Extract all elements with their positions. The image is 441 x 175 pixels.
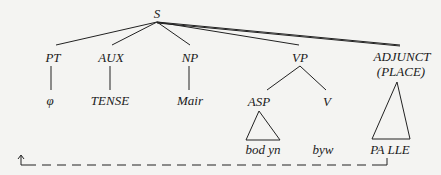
tree-edges [51,22,410,140]
edge-vp-v [300,66,326,90]
arrow-head-stem [21,156,27,165]
leaf-mair: Mair [176,93,204,108]
triangle-asp [246,111,280,140]
leaf-tense: TENSE [91,93,129,108]
node-pt: PT [44,50,61,65]
leaf-phi: φ [46,93,53,108]
leaf-pa-lle: PA LLE [369,142,410,157]
leaf-bod-yn: bod yn [245,142,280,157]
node-v: V [323,94,333,109]
edge-s-aux [112,22,157,45]
node-aux: AUX [97,50,124,65]
edge-s-pt [56,22,157,45]
node-vp: VP [292,50,308,65]
node-adjunct: ADJUNCT [372,49,431,64]
leaf-byw: byw [313,142,334,157]
edge-vp-asp [267,66,300,90]
node-np: NP [181,50,199,65]
node-s: S [154,6,161,21]
syntax-tree-diagram: S PT AUX NP VP ADJUNCT (PLACE) φ TENSE M… [0,0,441,175]
node-adjunct-place: (PLACE) [377,64,425,79]
arrow-tail-hook [380,158,387,165]
edge-s-adjunct-2 [157,23,400,46]
node-asp: ASP [247,94,270,109]
triangle-adjunct [372,82,410,139]
